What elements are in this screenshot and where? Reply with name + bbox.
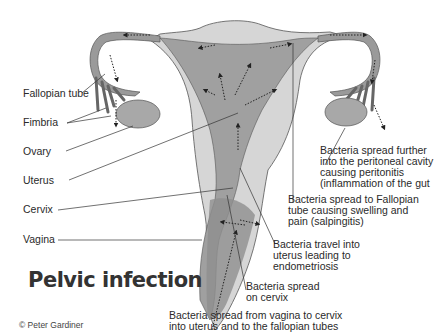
annotation-endometriosis: Bacteria travel into uterus leading to e… <box>273 239 360 272</box>
annotation-salpingitis: Bacteria spread to Fallopian tube causin… <box>288 194 419 227</box>
annotation-vagina-spread: Bacteria spread from vagina to cervix in… <box>169 310 342 332</box>
left-ovary <box>116 100 160 128</box>
label-cervix: Cervix <box>23 204 53 215</box>
right-ovary <box>325 98 367 126</box>
credit: © Peter Gardiner <box>19 320 83 330</box>
label-fimbria: Fimbria <box>23 117 58 128</box>
label-vagina: Vagina <box>23 234 55 245</box>
label-ovary: Ovary <box>23 146 51 157</box>
annotation-cervix-spread: Bacteria spread on cervix <box>246 281 320 303</box>
diagram-title: Pelvic infection <box>28 268 202 292</box>
label-uterus: Uterus <box>23 175 54 186</box>
label-fallopian-tube: Fallopian tube <box>23 88 89 99</box>
left-fallopian-tube <box>90 32 160 96</box>
annotation-peritoneal: Bacteria spread further into the periton… <box>320 145 433 189</box>
